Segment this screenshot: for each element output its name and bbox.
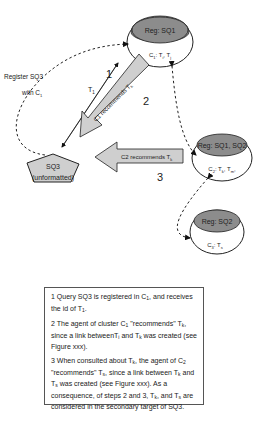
caption-step-2: 2 The agent of cluster C1 "recommends" T…: [51, 319, 197, 352]
sq2-header: Reg: SQ2: [202, 218, 233, 226]
t1-label: T1: [88, 86, 95, 95]
sq3-line2: (unformatted): [32, 174, 74, 182]
register-label-2: with C1: [21, 89, 43, 98]
node-sq3: SQ3 (unformatted): [27, 154, 79, 182]
arrow-c1-recommends: C1 recommends Tk: [80, 54, 149, 137]
sq12-header: Reg: SQ1, SQ2: [198, 142, 247, 150]
sq1-header: Reg: SQ1: [145, 27, 176, 35]
caption-box: 1 Query SQ3 is registered in C1, and rec…: [44, 287, 204, 405]
sq3-line1: SQ3: [46, 163, 60, 171]
arrow-c2-recommends: C2 recommends Tk: [95, 142, 183, 172]
step-2-label: 2: [143, 95, 149, 107]
node-sq1-sq2: Reg: SQ1, SQ2 C2: Tk, Tm,: [192, 134, 252, 181]
caption-step-1: 1 Query SQ3 is registered in C1, and rec…: [51, 292, 197, 315]
node-sq2: Reg: SQ2 C3: Ts: [190, 210, 244, 254]
step-3-label: 3: [157, 171, 163, 183]
register-label-1: Register SQ3: [4, 73, 43, 81]
caption-step-3: 3 When consulted about Tk, the agent of …: [51, 356, 197, 412]
link-arc-1: [172, 66, 196, 155]
step-1-label: 1: [106, 68, 112, 80]
